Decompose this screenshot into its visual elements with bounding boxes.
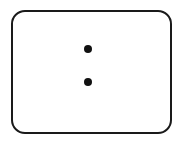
upper-dot	[84, 45, 92, 53]
figure-root: Rounded rectangle containing two vertica…	[0, 0, 186, 144]
lower-dot	[84, 78, 92, 86]
rounded-rectangle-frame	[12, 11, 171, 133]
diagram-canvas	[0, 0, 186, 144]
